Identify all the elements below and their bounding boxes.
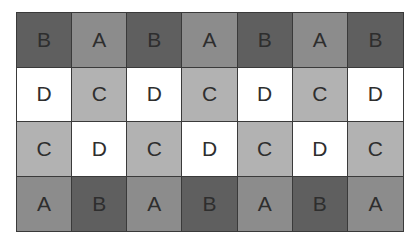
- grid-cell-a: A: [17, 177, 72, 232]
- grid-cell-a: A: [127, 177, 182, 232]
- grid-cell-d: D: [348, 68, 403, 123]
- grid-cell-d: D: [17, 68, 72, 123]
- grid-cell-d: D: [293, 122, 348, 177]
- grid-cell-c: C: [72, 68, 127, 123]
- grid-cell-b: B: [182, 177, 237, 232]
- grid-cell-b: B: [238, 13, 293, 68]
- grid-cell-b: B: [348, 13, 403, 68]
- grid-cell-d: D: [182, 122, 237, 177]
- grid-cell-c: C: [293, 68, 348, 123]
- grid-cell-a: A: [238, 177, 293, 232]
- grid-cell-c: C: [182, 68, 237, 123]
- grid-cell-c: C: [17, 122, 72, 177]
- grid-cell-a: A: [72, 13, 127, 68]
- grid-cell-d: D: [127, 68, 182, 123]
- grid-cell-d: D: [72, 122, 127, 177]
- grid-cell-c: C: [238, 122, 293, 177]
- grid-cell-b: B: [293, 177, 348, 232]
- grid-cell-b: B: [127, 13, 182, 68]
- grid-cell-a: A: [182, 13, 237, 68]
- grid-cell-c: C: [127, 122, 182, 177]
- grid-cell-c: C: [348, 122, 403, 177]
- grid-cell-b: B: [17, 13, 72, 68]
- letter-grid: BABABABDCDCDCDCDCDCDCABABABA: [16, 12, 404, 232]
- grid-cell-b: B: [72, 177, 127, 232]
- grid-cell-d: D: [238, 68, 293, 123]
- grid-cell-a: A: [293, 13, 348, 68]
- grid-cell-a: A: [348, 177, 403, 232]
